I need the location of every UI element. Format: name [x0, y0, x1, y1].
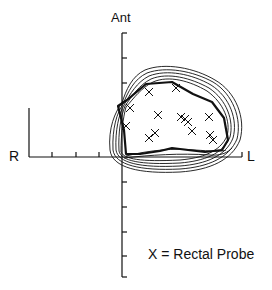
anterior-label: Ant [111, 10, 131, 25]
target-outline [118, 82, 228, 154]
right-label: R [9, 148, 19, 164]
x-marker-icon [151, 129, 159, 137]
x-marker-icon [126, 104, 134, 112]
left-label: L [247, 148, 255, 164]
x-marker-icon [145, 134, 153, 142]
x-marker-icon [206, 131, 214, 139]
x-marker-icon [188, 127, 196, 135]
legend-text: X = Rectal Probe [148, 246, 254, 262]
x-marker-icon [145, 88, 153, 96]
x-marker-icon [205, 113, 213, 121]
x-marker-icon [154, 111, 162, 119]
x-marker-icon [184, 118, 192, 126]
x-marker-icon [209, 136, 217, 144]
